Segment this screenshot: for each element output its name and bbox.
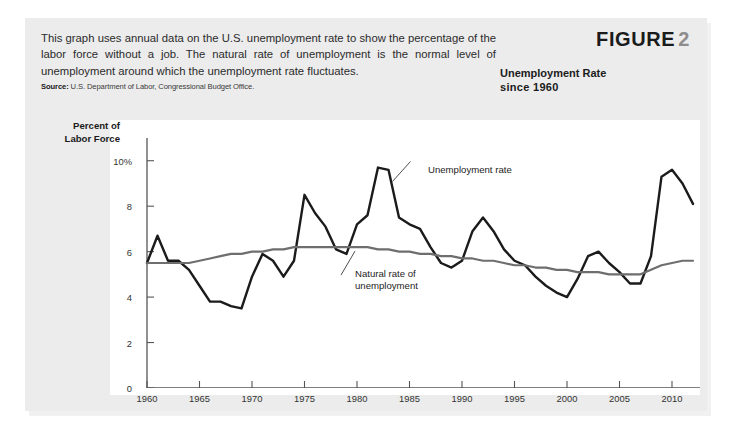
- series-unemployment-rate: [147, 168, 693, 309]
- figure-caption: This graph uses annual data on the U.S. …: [41, 30, 496, 79]
- source-label: Source:: [41, 82, 69, 91]
- unemployment-line-chart: [137, 138, 700, 388]
- leader-line-unemployment: [393, 161, 411, 181]
- y-tick-label: 2: [110, 337, 132, 348]
- series-natural-rate: [147, 247, 693, 274]
- y-tick-label: 6: [110, 246, 132, 257]
- figure-title-line2: since 1960: [500, 80, 690, 94]
- x-tick-label: 1960: [137, 393, 158, 404]
- figure-panel: This graph uses annual data on the U.S. …: [25, 18, 707, 411]
- y-tick-label: 8: [110, 201, 132, 212]
- x-tick-label: 1990: [452, 393, 473, 404]
- x-tick-label: 1965: [189, 393, 210, 404]
- source-text: U.S. Department of Labor, Congressional …: [69, 82, 255, 91]
- figure-word: FIGURE: [596, 28, 675, 50]
- figure-num: 2: [678, 28, 690, 50]
- y-tick-label: 10%: [110, 155, 132, 166]
- x-tick-label: 1970: [242, 393, 263, 404]
- figure-number-heading: FIGURE2: [596, 28, 690, 51]
- figure-screenshot: This graph uses annual data on the U.S. …: [0, 0, 733, 439]
- x-tick-label: 2010: [662, 393, 683, 404]
- x-tick-label: 1980: [347, 393, 368, 404]
- leader-line-natural: [341, 251, 355, 275]
- chart-panel: Percent of Labor Force Unemployment rate…: [110, 120, 700, 395]
- y-axis-title: Percent of Labor Force: [48, 120, 120, 145]
- annotation-unemployment-rate: Unemployment rate: [428, 164, 512, 176]
- x-tick-label: 1985: [399, 393, 420, 404]
- chart-plot-area: Unemployment rate Natural rate of unempl…: [137, 138, 700, 388]
- figure-title-line1: Unemployment Rate: [500, 66, 690, 80]
- y-axis-title-line2: Labor Force: [48, 133, 120, 146]
- annotation-natural-rate: Natural rate of unemployment: [355, 268, 418, 292]
- figure-title: Unemployment Rate since 1960: [500, 66, 690, 94]
- x-tick-label: 2000: [557, 393, 578, 404]
- y-axis-title-line1: Percent of: [48, 120, 120, 133]
- x-tick-label: 1975: [294, 393, 315, 404]
- y-tick-label: 0: [110, 383, 132, 394]
- y-tick-label: 4: [110, 292, 132, 303]
- x-tick-label: 1995: [504, 393, 525, 404]
- x-tick-label: 2005: [609, 393, 630, 404]
- figure-source: Source: U.S. Department of Labor, Congre…: [41, 82, 481, 91]
